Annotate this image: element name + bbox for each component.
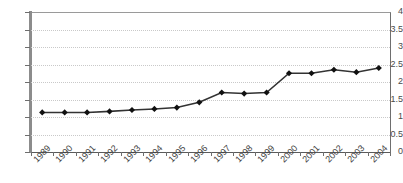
data-series-layer bbox=[0, 0, 403, 183]
data-point-marker bbox=[353, 69, 359, 75]
data-point-marker bbox=[151, 106, 157, 112]
data-point-marker bbox=[129, 107, 135, 113]
data-point-marker bbox=[376, 65, 382, 71]
data-point-marker bbox=[331, 67, 337, 73]
data-point-marker bbox=[219, 89, 225, 95]
data-point-marker bbox=[106, 108, 112, 114]
series-line bbox=[42, 68, 379, 112]
line-chart: 00.511.522.533.54 1989199019911992199319… bbox=[0, 0, 403, 183]
data-point-marker bbox=[39, 109, 45, 115]
data-point-marker bbox=[241, 90, 247, 96]
series-markers bbox=[39, 65, 382, 116]
data-point-marker bbox=[62, 109, 68, 115]
data-point-marker bbox=[196, 99, 202, 105]
data-point-marker bbox=[174, 104, 180, 110]
data-point-marker bbox=[308, 70, 314, 76]
data-point-marker bbox=[84, 109, 90, 115]
